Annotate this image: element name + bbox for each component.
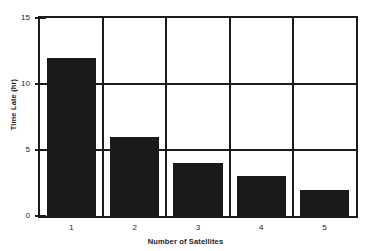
bar-4	[237, 176, 286, 216]
x-tick-label-5: 5	[309, 224, 339, 232]
y-tick-mark-0	[35, 215, 46, 217]
x-tick-label-4: 4	[246, 224, 276, 232]
bar-chart: 051015 12345 Number of Satellites Time L…	[0, 0, 371, 251]
x-axis-title: Number of Satellites	[0, 237, 371, 246]
y-tick-label-0: 0	[6, 212, 30, 220]
y-tick-mark-5	[35, 149, 46, 151]
bar-1	[47, 58, 96, 216]
plot-area	[38, 16, 358, 218]
y-axis-title: Time Late (hr)	[9, 50, 18, 160]
plot-inner	[40, 18, 356, 216]
x-tick-label-1: 1	[57, 224, 87, 232]
bar-3	[173, 163, 222, 216]
y-tick-label-15: 15	[6, 14, 30, 22]
y-tick-mark-15	[35, 17, 46, 19]
bar-5	[300, 190, 349, 216]
x-tick-label-3: 3	[183, 224, 213, 232]
y-tick-mark-10	[35, 83, 46, 85]
bar-series	[40, 18, 356, 216]
bar-2	[110, 137, 159, 216]
x-tick-label-2: 2	[120, 224, 150, 232]
